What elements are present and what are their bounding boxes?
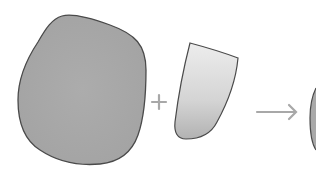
arrow-operator	[257, 105, 296, 119]
small-shape	[175, 43, 238, 139]
plus-operator	[152, 95, 166, 109]
diagram-canvas	[0, 0, 316, 177]
large-shape	[18, 15, 146, 164]
